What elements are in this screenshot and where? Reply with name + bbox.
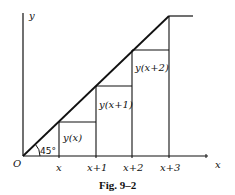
- origin-label: O: [13, 158, 21, 169]
- x-tick-x1: x+1: [87, 162, 107, 173]
- figure-caption: Fig. 9–2: [99, 179, 137, 191]
- angle-label: 45°: [40, 146, 56, 156]
- x-tick-x2: x+2: [123, 162, 143, 173]
- step-label-yx1: y(x+1): [98, 99, 133, 110]
- x-axis-label: x: [215, 159, 221, 170]
- y-axis-label: y: [28, 10, 35, 21]
- diagram: y x O 45° y(x) y(x+1) y(x+2) x x+1 x+2 x…: [0, 0, 235, 195]
- x-tick-x3: x+3: [160, 162, 180, 173]
- step-label-yx2: y(x+2): [134, 62, 169, 73]
- x-tick-x: x: [56, 162, 62, 173]
- step-label-yx: y(x): [62, 132, 82, 143]
